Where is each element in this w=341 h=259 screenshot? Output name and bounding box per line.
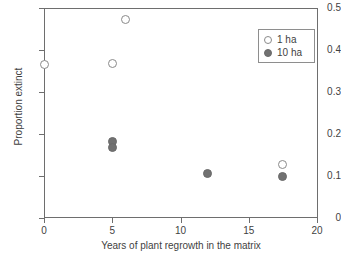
- chart-legend: 1 ha 10 ha: [258, 29, 315, 63]
- x-tick-label: 15: [234, 225, 264, 236]
- legend-entry-1ha: 1 ha: [264, 33, 296, 46]
- legend-label: 1 ha: [277, 35, 296, 45]
- y-tick-label: 0: [307, 213, 341, 223]
- plot-frame-right: [317, 8, 318, 219]
- x-tick-label: 5: [97, 225, 127, 236]
- x-tick-label: 10: [166, 225, 196, 236]
- y-tick-label: 0.1: [307, 171, 341, 181]
- legend-entry-10ha: 10 ha: [264, 46, 302, 59]
- y-tick-label: 0.3: [307, 87, 341, 97]
- y-tick-label: 0.5: [307, 3, 341, 13]
- y-tick: [39, 50, 44, 51]
- open-circle-icon: [264, 36, 272, 44]
- y-tick: [39, 176, 44, 177]
- data-point: [40, 60, 49, 69]
- x-tick: [249, 218, 250, 223]
- data-point: [108, 59, 117, 68]
- y-axis-title: Proportion extinct: [13, 37, 24, 177]
- y-tick: [39, 92, 44, 93]
- x-tick: [317, 218, 318, 223]
- legend-label: 10 ha: [277, 48, 302, 58]
- scatter-chart-figure: 00.10.20.30.40.5 05101520 Proportion ext…: [0, 0, 341, 259]
- data-point: [203, 169, 212, 178]
- x-axis-title: Years of plant regrowth in the matrix: [44, 240, 318, 251]
- y-tick: [39, 134, 44, 135]
- x-tick-label: 0: [29, 225, 59, 236]
- y-tick: [39, 8, 44, 9]
- x-tick: [44, 218, 45, 223]
- x-tick-label: 20: [302, 225, 332, 236]
- data-point: [278, 172, 287, 181]
- filled-circle-icon: [264, 49, 272, 57]
- x-tick: [112, 218, 113, 223]
- x-tick: [181, 218, 182, 223]
- y-tick-label: 0.2: [307, 129, 341, 139]
- plot-frame-top: [44, 8, 318, 9]
